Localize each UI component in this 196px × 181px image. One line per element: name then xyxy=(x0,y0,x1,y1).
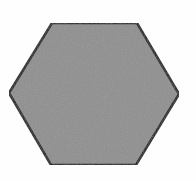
hexagon-shape xyxy=(9,23,179,165)
diagram-canvas xyxy=(0,0,196,181)
hexagon-figure xyxy=(0,0,196,181)
